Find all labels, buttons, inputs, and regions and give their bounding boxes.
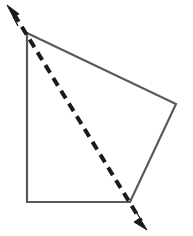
geometry-diagram [0,0,193,236]
figure-canvas [0,0,193,236]
diagram-background [0,0,193,236]
